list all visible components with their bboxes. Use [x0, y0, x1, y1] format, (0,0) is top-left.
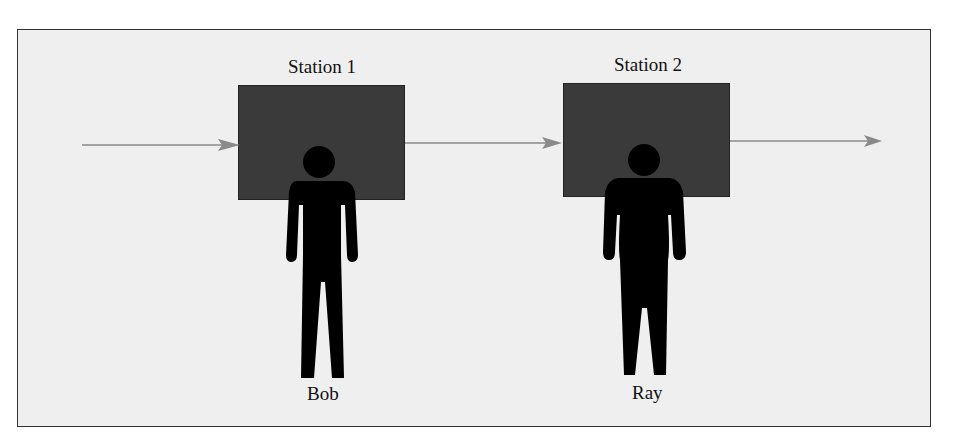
- arrow-icon: [730, 135, 882, 147]
- worker-bob-label: Bob: [307, 383, 339, 405]
- arrow-icon: [405, 137, 562, 149]
- worker-ray-label: Ray: [632, 382, 663, 404]
- flow-overlay: [0, 0, 967, 435]
- person-ray-icon: [603, 144, 686, 375]
- person-bob-icon: [286, 146, 358, 378]
- arrow-icon: [82, 139, 240, 151]
